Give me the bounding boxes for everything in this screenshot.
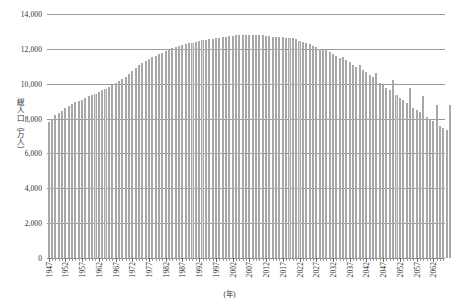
bar — [58, 113, 60, 258]
bar — [449, 105, 451, 259]
bar — [178, 46, 180, 258]
bar — [135, 68, 137, 258]
bar — [302, 42, 304, 258]
bar — [288, 38, 290, 258]
bar — [218, 38, 220, 258]
x-tick-label-2052: 2052 — [396, 262, 405, 277]
bar — [115, 83, 117, 258]
bar — [375, 73, 377, 258]
bar — [406, 103, 408, 258]
bar — [395, 95, 397, 258]
bar — [101, 90, 103, 258]
x-tick — [152, 258, 153, 261]
bar — [104, 89, 106, 258]
bar — [141, 63, 143, 258]
x-tick-label-2037: 2037 — [346, 262, 355, 277]
bar — [225, 37, 227, 258]
bar — [74, 102, 76, 258]
bar — [315, 47, 317, 258]
bar — [278, 37, 280, 258]
x-tick — [320, 258, 321, 261]
bar — [349, 62, 351, 258]
x-tick-label-1967: 1967 — [112, 262, 121, 277]
bars-layer — [47, 14, 445, 258]
bar — [402, 100, 404, 258]
bar — [252, 35, 254, 258]
bar — [88, 96, 90, 258]
x-tick-label-1987: 1987 — [178, 262, 187, 277]
bar — [151, 57, 153, 258]
bar — [355, 67, 357, 258]
bar — [285, 38, 287, 258]
x-tick-label-2017: 2017 — [279, 262, 288, 277]
x-tick — [62, 258, 63, 261]
bar — [235, 35, 237, 258]
bar — [222, 37, 224, 258]
bar — [205, 40, 207, 258]
x-tick — [380, 258, 381, 261]
x-tick — [146, 258, 147, 261]
x-tick-label-1957: 1957 — [78, 262, 87, 277]
x-tick — [440, 258, 441, 261]
bar — [309, 44, 311, 258]
bar — [54, 115, 56, 258]
x-tick — [340, 258, 341, 261]
bar — [305, 43, 307, 258]
x-tick — [323, 258, 324, 261]
x-tick — [403, 258, 404, 261]
bar — [258, 35, 260, 258]
bar — [212, 39, 214, 258]
bar — [282, 37, 284, 258]
bar — [329, 52, 331, 258]
x-tick — [79, 258, 80, 261]
x-tick — [346, 258, 347, 261]
x-tick — [52, 258, 53, 261]
bar — [369, 75, 371, 258]
x-tick-label-1972: 1972 — [128, 262, 137, 277]
x-tick-label-2032: 2032 — [329, 262, 338, 277]
x-tick — [189, 258, 190, 261]
x-tick-label-1997: 1997 — [212, 262, 221, 277]
x-tick — [176, 258, 177, 261]
bar — [158, 54, 160, 258]
bar — [265, 36, 267, 258]
x-tick — [343, 258, 344, 261]
bar — [319, 49, 321, 258]
bar — [181, 45, 183, 258]
bar — [84, 98, 86, 258]
bar — [412, 108, 414, 258]
bar — [436, 105, 438, 259]
x-tick — [142, 258, 143, 261]
x-tick — [239, 258, 240, 261]
x-tick — [306, 258, 307, 261]
x-tick — [393, 258, 394, 261]
x-tick — [179, 258, 180, 261]
x-tick — [279, 258, 280, 261]
x-tick-label-2022: 2022 — [296, 262, 305, 277]
bar — [201, 40, 203, 258]
bar — [429, 119, 431, 258]
x-tick — [122, 258, 123, 261]
bar — [372, 77, 374, 258]
x-tick — [443, 258, 444, 261]
x-tick — [119, 258, 120, 261]
bar — [325, 50, 327, 258]
x-tick — [430, 258, 431, 261]
x-tick — [259, 258, 260, 261]
bar — [168, 50, 170, 258]
bar — [188, 43, 190, 258]
x-tick-label-2047: 2047 — [379, 262, 388, 277]
bar — [255, 35, 257, 258]
bar — [379, 83, 381, 258]
x-tick — [407, 258, 408, 261]
x-tick — [437, 258, 438, 261]
x-tick-label-1992: 1992 — [195, 262, 204, 277]
x-tick — [293, 258, 294, 261]
bar — [382, 85, 384, 258]
bar — [128, 74, 130, 258]
x-tick — [112, 258, 113, 261]
x-tick — [159, 258, 160, 261]
bar — [161, 53, 163, 258]
x-tick-label-2057: 2057 — [413, 262, 422, 277]
bar — [131, 71, 133, 259]
